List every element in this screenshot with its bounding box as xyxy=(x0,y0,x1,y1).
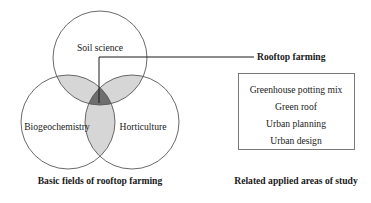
related-area-item-1: Greenhouse potting mix xyxy=(250,84,343,95)
venn-label-biogeochemistry: Biogeochemistry xyxy=(24,121,90,132)
related-area-item-2: Green roof xyxy=(275,101,318,112)
venn-label-horticulture: Horticulture xyxy=(120,121,167,132)
rooftop-farming-figure: Soil science Biogeochemistry Horticultur… xyxy=(0,0,371,203)
callout-label-rooftop-farming: Rooftop farming xyxy=(257,51,326,62)
venn-label-soil-science: Soil science xyxy=(77,42,123,53)
related-area-item-3: Urban planning xyxy=(266,118,326,129)
caption-related-areas: Related applied areas of study xyxy=(234,175,358,186)
caption-basic-fields: Basic fields of rooftop farming xyxy=(38,175,163,186)
related-area-item-4: Urban design xyxy=(270,135,322,146)
